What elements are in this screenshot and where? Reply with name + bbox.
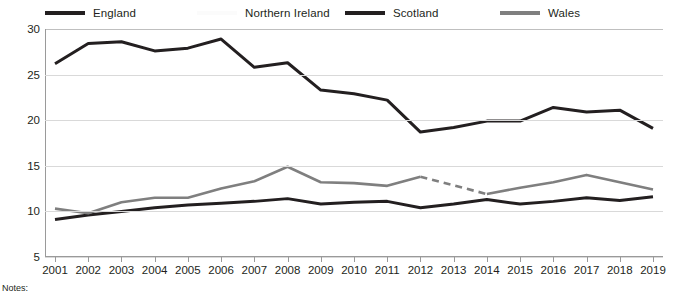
x-tick-label-2018: 2018 — [607, 264, 633, 276]
x-tick-mark-2018 — [620, 257, 621, 262]
x-tick-label-2004: 2004 — [142, 264, 168, 276]
legend-item-northern-ireland: Northern Ireland — [197, 4, 330, 22]
x-tick-label-2016: 2016 — [541, 264, 567, 276]
x-tick-mark-2014 — [487, 257, 488, 262]
legend-swatch-icon-northern-ireland — [197, 11, 237, 15]
series-line-wales — [55, 167, 420, 214]
x-tick-label-2012: 2012 — [408, 264, 434, 276]
series-lines — [45, 29, 663, 257]
series-line-scotland — [55, 39, 653, 132]
legend-label-wales: Wales — [548, 7, 580, 19]
legend-item-scotland: Scotland — [345, 4, 439, 22]
x-tick-label-2014: 2014 — [474, 264, 500, 276]
x-tick-label-2005: 2005 — [175, 264, 201, 276]
x-tick-mark-2015 — [520, 257, 521, 262]
x-tick-label-2006: 2006 — [208, 264, 234, 276]
gridline-20 — [45, 120, 663, 121]
x-tick-mark-2002 — [88, 257, 89, 262]
x-tick-mark-2008 — [288, 257, 289, 262]
y-tick-label-15: 15 — [2, 160, 40, 172]
x-tick-label-2019: 2019 — [640, 264, 666, 276]
x-tick-mark-2005 — [188, 257, 189, 262]
x-tick-mark-2007 — [254, 257, 255, 262]
x-tick-mark-2013 — [454, 257, 455, 262]
plot-area — [45, 29, 663, 257]
x-tick-label-2002: 2002 — [75, 264, 101, 276]
legend-item-wales: Wales — [500, 4, 580, 22]
series-line-wales — [487, 175, 653, 194]
notes-label: Notes: — [2, 283, 28, 293]
x-tick-label-2011: 2011 — [375, 264, 400, 276]
x-tick-label-2015: 2015 — [507, 264, 533, 276]
x-tick-label-2008: 2008 — [275, 264, 301, 276]
legend-label-england: England — [93, 7, 136, 19]
legend-swatch-icon-scotland — [345, 11, 385, 15]
x-tick-mark-2009 — [321, 257, 322, 262]
x-tick-mark-2003 — [121, 257, 122, 262]
x-tick-mark-2010 — [354, 257, 355, 262]
y-tick-label-20: 20 — [2, 114, 40, 126]
legend-item-england: England — [45, 4, 136, 22]
y-tick-label-10: 10 — [2, 205, 40, 217]
x-tick-label-2007: 2007 — [242, 264, 268, 276]
legend-swatch-icon-england — [45, 11, 85, 15]
x-tick-label-2013: 2013 — [441, 264, 467, 276]
x-tick-mark-2011 — [387, 257, 388, 262]
x-tick-label-2009: 2009 — [308, 264, 334, 276]
gridline-10 — [45, 211, 663, 212]
y-tick-label-25: 25 — [2, 69, 40, 81]
gridline-25 — [45, 75, 663, 76]
y-tick-label-5: 5 — [2, 251, 40, 263]
legend-label-northern-ireland: Northern Ireland — [245, 7, 330, 19]
legend-swatch-icon-wales — [500, 11, 540, 15]
line-chart-figure: England Northern Ireland Scotland Wales … — [0, 0, 677, 297]
x-tick-mark-2016 — [553, 257, 554, 262]
x-tick-mark-2017 — [587, 257, 588, 262]
x-tick-label-2017: 2017 — [574, 264, 600, 276]
gridline-15 — [45, 166, 663, 167]
y-tick-label-30: 30 — [2, 23, 40, 35]
chart-legend: England Northern Ireland Scotland Wales — [0, 0, 677, 26]
x-axis: 2001200220032004200520062007200820092010… — [45, 257, 663, 279]
x-tick-label-2001: 2001 — [42, 264, 68, 276]
legend-label-scotland: Scotland — [393, 7, 439, 19]
x-tick-mark-2019 — [653, 257, 654, 262]
x-tick-mark-2004 — [155, 257, 156, 262]
x-tick-mark-2001 — [55, 257, 56, 262]
x-tick-label-2003: 2003 — [109, 264, 135, 276]
x-tick-mark-2012 — [420, 257, 421, 262]
y-axis: 51015202530 — [0, 29, 40, 257]
series-line-break-wales — [420, 177, 486, 194]
x-tick-label-2010: 2010 — [341, 264, 367, 276]
x-tick-mark-2006 — [221, 257, 222, 262]
